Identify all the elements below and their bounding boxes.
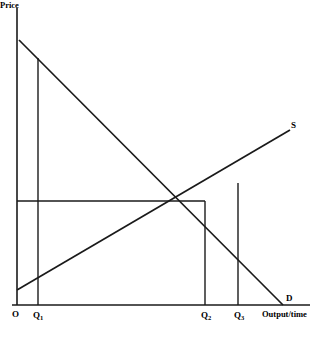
demand-curve-label: D [286, 294, 293, 303]
y-axis-label: Price [0, 1, 19, 10]
q2-tick-label: Q2 [201, 310, 211, 320]
q1-tick-label: Q1 [33, 310, 43, 320]
supply-demand-figure: Price Output/time S D O Q1 Q2 Q3 [0, 0, 315, 338]
q3-tick-letter: Q [234, 310, 241, 320]
supply-curve [17, 130, 290, 290]
q3-tick-label: Q3 [234, 310, 244, 320]
q2-tick-letter: Q [201, 310, 208, 320]
chart-canvas [0, 0, 315, 338]
q2-tick-subscript: 2 [208, 314, 211, 321]
q1-tick-letter: Q [33, 310, 40, 320]
q3-tick-subscript: 3 [241, 314, 244, 321]
supply-curve-label: S [291, 121, 296, 130]
origin-label: O [12, 310, 19, 319]
q1-tick-subscript: 1 [40, 314, 43, 321]
x-axis-label: Output/time [262, 310, 307, 319]
